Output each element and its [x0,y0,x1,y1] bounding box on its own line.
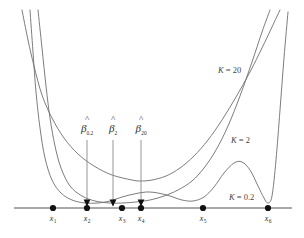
plot-canvas [0,0,304,238]
curves-group [22,10,288,203]
arrowhead-beta-hat-20 [138,200,145,207]
curve-k-0.2 [30,10,288,203]
data-point-x5 [200,205,206,211]
figure-root: K = 20K = 2K = 0.2 ^β0.2^β2^β20 x1x2x3x4… [0,0,304,238]
data-point-x3 [119,205,125,211]
data-point-x1 [50,205,56,211]
curve-k-20 [22,10,280,181]
data-point-x6 [265,205,271,211]
drop-lines-group [87,140,141,206]
curve-k-2 [38,10,270,203]
